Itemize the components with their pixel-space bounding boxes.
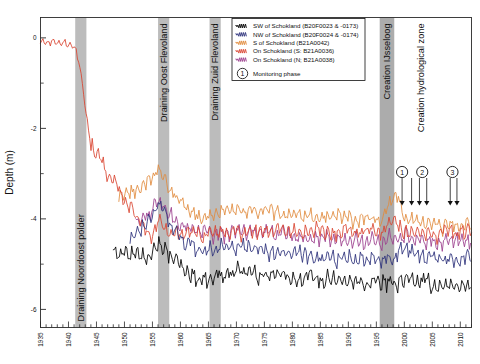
x-tick-label: 1995 [373,332,380,347]
y-axis-title: Depth (m) [4,150,15,194]
marker-number: 2 [420,169,424,176]
legend: SW of Schokland (B20F0023 & -0173)NW of … [232,19,365,81]
x-tick-label: 1945 [93,332,100,347]
depth-time-series-chart: 0-2-4-6193519401945195019551960196519701… [0,0,480,364]
x-tick-label: 1975 [261,332,268,347]
monitoring-phase-marker: 3 [447,166,460,205]
x-tick-label: 1955 [149,332,156,347]
legend-phase-number: 1 [241,70,245,77]
marker-number: 1 [400,169,404,176]
monitoring-phase-marker: 2 [417,166,430,205]
legend-item-label: S of Schokland (B21A0042) [253,39,329,46]
band-label: Draining Zuid Flevoland [210,24,220,121]
x-tick-label: 1980 [289,332,296,347]
annotation-label: Creation hydrological zone [416,24,426,133]
band-label: Draining Noordoost polder [76,214,86,321]
x-tick-label: 1965 [205,332,212,347]
x-tick-label: 1970 [233,332,240,347]
y-tick-label: 0 [33,34,37,41]
band-label: Draining Oost Flevoland [159,24,169,123]
legend-item-label: SW of Schokland (B20F0023 & -0173) [253,22,358,29]
y-tick-label: -6 [31,306,37,313]
y-tick-label: -2 [31,125,37,132]
x-tick-label: 2005 [429,332,436,347]
chart-figure: 0-2-4-6193519401945195019551960196519701… [0,0,480,364]
x-tick-label: 1960 [177,332,184,347]
y-tick-label: -4 [31,215,37,222]
legend-item-label: On Schokland (N; B21A0038) [253,56,335,63]
x-tick-label: 2000 [401,332,408,347]
legend-phase-label: Monitoring phase [253,70,301,77]
legend-item-label: NW of Schokland (B20F0024 & -0174) [253,31,359,38]
band-label: Creation IJsseloog [382,24,392,100]
x-tick-label: 1940 [65,332,72,347]
x-tick-label: 1950 [121,332,128,347]
x-tick-label: 1990 [345,332,352,347]
x-tick-label: 1985 [317,332,324,347]
x-tick-label: 2010 [457,332,464,347]
marker-number: 3 [451,169,455,176]
legend-item-label: On Schokland (S: B21A0036) [253,47,334,54]
x-tick-label: 1935 [37,332,44,347]
